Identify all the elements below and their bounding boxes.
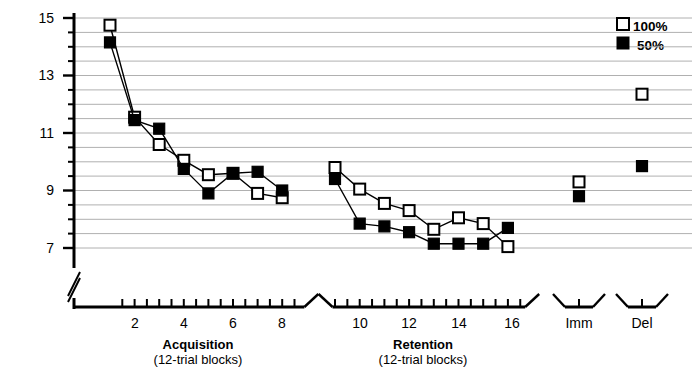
data-point-100: [379, 198, 390, 209]
gridlines: [74, 18, 692, 248]
data-point-50: [478, 238, 489, 249]
x-axis-start-slash: [319, 294, 333, 307]
data-point-100: [428, 224, 439, 235]
legend-marker-100: [617, 18, 629, 30]
y-axis: [63, 13, 80, 309]
data-point-50: [178, 163, 189, 174]
data-point-50: [404, 227, 415, 238]
data-point-50: [502, 222, 513, 233]
data-point-imm-50: [574, 191, 585, 202]
data-point-50: [252, 166, 263, 177]
data-point-imm-100: [574, 176, 585, 187]
data-point-50: [330, 174, 341, 185]
data-point-100: [354, 184, 365, 195]
data-point-50: [228, 168, 239, 179]
data-point-50: [154, 123, 165, 134]
series-line-retention-100: [335, 168, 508, 247]
data-point-50: [105, 37, 116, 48]
data-point-del-100: [637, 89, 648, 100]
imm-axis-start-slash: [553, 294, 565, 307]
data-point-100: [203, 169, 214, 180]
data-point-50: [277, 185, 288, 196]
y-axis-break-mark: [68, 272, 80, 296]
data-point-100: [330, 162, 341, 173]
chart-canvas: [0, 0, 696, 381]
data-point-50: [129, 115, 140, 126]
data-point-100: [478, 218, 489, 229]
legend-markers: [617, 18, 629, 49]
del-axis-start-slash: [616, 294, 628, 307]
data-point-100: [453, 212, 464, 223]
data-point-100: [404, 205, 415, 216]
data-point-50: [203, 188, 214, 199]
legend-marker-50: [617, 37, 629, 49]
x-axes: [74, 294, 668, 307]
data-point-50: [453, 238, 464, 249]
data-point-50: [428, 238, 439, 249]
data-point-del-50: [637, 161, 648, 172]
imm-axis-end-slash: [593, 294, 605, 307]
x-axis-end-slash: [304, 294, 318, 307]
data-point-50: [379, 221, 390, 232]
data-point-100: [252, 188, 263, 199]
del-axis-end-slash: [656, 294, 668, 307]
data-point-50: [354, 218, 365, 229]
plot-series: [105, 20, 648, 252]
chart-root: RMS Error Score (Deg) 15 13 11 9 7 2 4 6…: [0, 0, 696, 381]
x-axis-end-slash: [525, 294, 539, 307]
data-point-100: [502, 241, 513, 252]
data-point-100: [154, 139, 165, 150]
data-point-100: [105, 20, 116, 31]
